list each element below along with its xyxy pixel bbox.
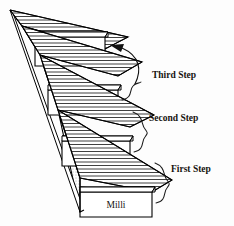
metric-staircase-figure: Base Unit (0, 0, 234, 226)
staircase-diagram: Base Unit (0, 0, 234, 226)
step-box-milli[interactable]: Milli (80, 187, 155, 217)
bracket-third-step (122, 82, 141, 100)
bracket-label-second-step: Second Step (149, 113, 198, 123)
bracket-label-third-step: Third Step (152, 70, 196, 80)
bracket-label-first-step: First Step (171, 164, 211, 174)
arrow-head-icon (110, 44, 124, 52)
step-label-milli: Milli (106, 200, 125, 210)
